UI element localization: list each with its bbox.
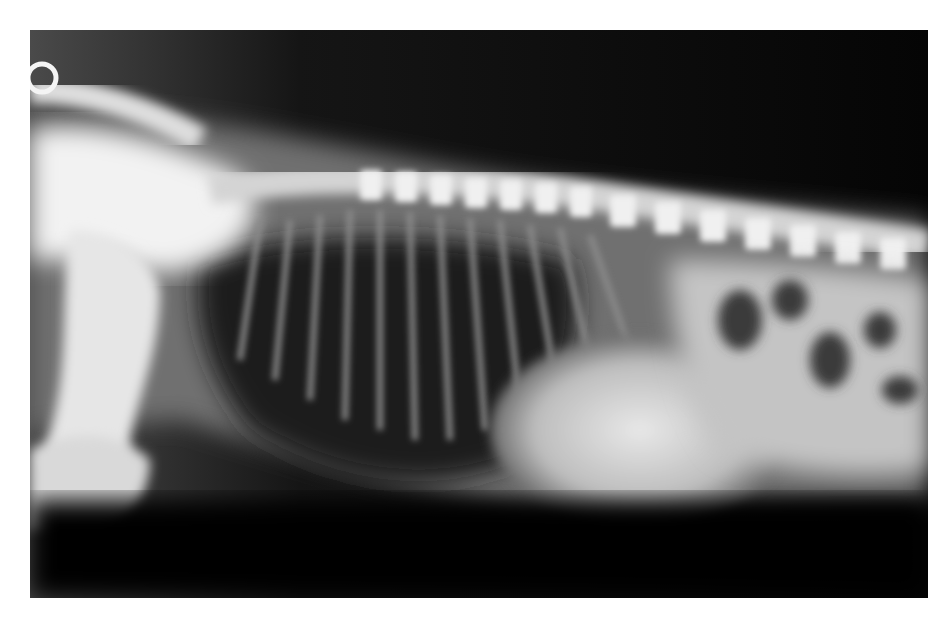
radiograph-drawing — [30, 30, 928, 598]
radiograph-image — [30, 30, 928, 598]
